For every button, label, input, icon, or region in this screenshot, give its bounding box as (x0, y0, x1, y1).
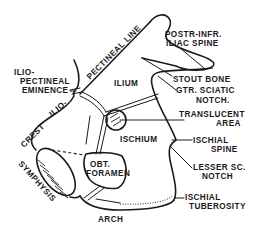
label-obt-foramen-2: FORAMEN (86, 169, 130, 178)
label-gtr-sciatic-2: NOTCH. (196, 96, 230, 105)
label-postr-infr-1: POSTR-INFR. (165, 30, 222, 39)
label-ischial-spine-2: SPINE (211, 145, 238, 154)
acetabulum-inner (86, 116, 90, 144)
leader-postr-iliac-spine (180, 48, 204, 68)
hip-bone-diagram: PECTINEAL LINE ILIO- PECTINEAL EMINENCE … (0, 0, 262, 236)
label-ilio: ILIO- (48, 98, 70, 118)
label-ilium: ILIUM (114, 79, 138, 88)
y-cartilage-right (104, 94, 158, 116)
foramen-to-arch-bar (84, 186, 104, 200)
label-ilio-pectineal-1: ILIO- (14, 68, 35, 77)
label-ilio-pectineal-2: PECTINEAL (20, 77, 70, 86)
label-ischium: ISCHIUM (120, 135, 157, 144)
label-ischial-tub-2: TUBEROSITY (189, 202, 246, 211)
ischial-tuberosity-outline (80, 196, 174, 210)
y-cartilage-upper (80, 92, 106, 116)
arch-inner-line (96, 199, 120, 203)
leader-lesser-sc (170, 146, 192, 168)
symphysis-to-arch (70, 196, 80, 198)
label-obt-foramen-1: OBT. (90, 160, 110, 169)
translucent-hatching (110, 113, 121, 126)
label-stout-bone: STOUT BONE (173, 75, 231, 84)
label-postr-infr-2: ILIAC SPINE (166, 39, 219, 48)
label-ischial-spine-1: ISCHIAL (193, 136, 229, 145)
label-ischial-tub-1: ISCHIAL (185, 193, 221, 202)
label-gtr-sciatic-1: GTR. SCIATIC (176, 86, 235, 95)
label-ilio-pectineal-3: EMINENCE (22, 86, 69, 95)
arch-dotted-line (120, 196, 172, 204)
label-pectineal-line: PECTINEAL LINE (85, 23, 143, 81)
label-arch: ARCH (98, 215, 123, 224)
label-translucent-1: TRANSLUCENT (179, 110, 245, 119)
label-lesser-sc-1: LESSER SC. (193, 163, 246, 172)
label-lesser-sc-2: NOTCH (202, 172, 233, 181)
label-translucent-2: AREA (216, 119, 241, 128)
symphysis-area (29, 142, 83, 202)
